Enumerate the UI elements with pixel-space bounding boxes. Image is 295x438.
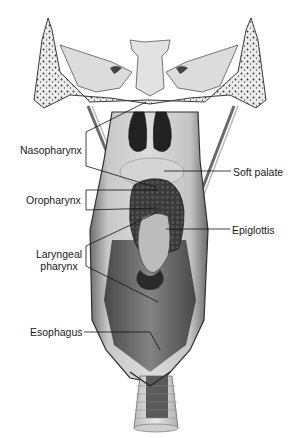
skull-base <box>34 18 266 108</box>
label-oropharynx: Oropharynx <box>26 194 81 206</box>
label-laryngeal-line2: pharynx <box>34 260 84 272</box>
pharynx-diagram <box>0 0 295 438</box>
esophagus <box>130 372 178 432</box>
label-laryngeal-pharynx: Laryngeal pharynx <box>34 248 84 272</box>
label-epiglottis: Epiglottis <box>232 224 275 236</box>
label-nasopharynx: Nasopharynx <box>20 144 82 156</box>
label-soft-palate: Soft palate <box>233 166 283 178</box>
label-esophagus: Esophagus <box>30 326 83 338</box>
label-laryngeal-line1: Laryngeal <box>34 248 84 260</box>
